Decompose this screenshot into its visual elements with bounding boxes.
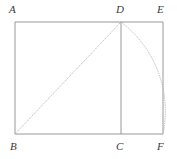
vertex-label-D: D xyxy=(116,4,124,15)
geometry-canvas xyxy=(0,0,177,159)
arc-DF xyxy=(121,22,165,134)
geometry-figure: A D E B C F xyxy=(0,0,177,159)
vertex-label-E: E xyxy=(157,4,164,15)
vertex-label-A: A xyxy=(9,4,16,15)
segment-diagonal-BD xyxy=(15,22,121,134)
vertex-label-F: F xyxy=(157,141,164,152)
vertex-label-C: C xyxy=(116,141,123,152)
vertex-label-B: B xyxy=(10,141,17,152)
